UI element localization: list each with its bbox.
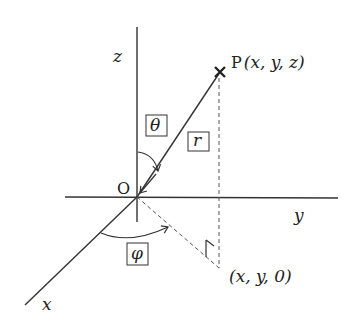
phi-label-box: φ: [127, 243, 148, 265]
theta-arc: [138, 152, 158, 171]
x-axis-label: x: [42, 294, 52, 314]
radius-arrow: [140, 174, 156, 193]
z-axis-label: z: [112, 46, 123, 66]
phi-label: φ: [131, 243, 143, 263]
theta-label-box: θ: [146, 115, 167, 136]
phi-arc: [101, 227, 168, 238]
x-axis: [25, 197, 137, 305]
origin-label: O: [117, 179, 130, 198]
theta-label: θ: [150, 115, 160, 135]
y-axis: [65, 197, 338, 198]
y-axis-label: y: [293, 205, 304, 225]
horizontal-projection-line: [137, 197, 219, 268]
spherical-coordinates-diagram: z y x O P(x, y, z) (x, y, 0) θ r φ: [0, 0, 360, 329]
right-angle-mark: [206, 240, 214, 257]
radius-label-box: r: [188, 130, 209, 151]
point-p-label: P(x, y, z): [231, 52, 305, 72]
point-p-marker: [215, 67, 225, 77]
radius-label: r: [193, 130, 202, 150]
projection-label: (x, y, 0): [229, 266, 292, 286]
